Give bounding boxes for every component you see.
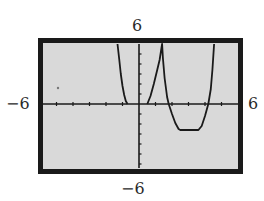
xmax-label: 6 (248, 96, 258, 112)
stray-pixel (57, 87, 59, 89)
xmin-label: −6 (6, 96, 30, 112)
function-plot (38, 38, 243, 174)
ymax-label: 6 (132, 18, 142, 34)
calculator-graph-screen (38, 38, 243, 174)
ymin-label: −6 (121, 181, 145, 197)
